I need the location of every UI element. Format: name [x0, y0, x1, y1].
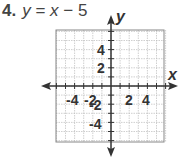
x-tick-label-4: 4 — [142, 92, 150, 108]
coordinate-plane: x y -4 -2 2 4 4 2 -2 -4 — [0, 0, 184, 161]
x-axis-label: x — [167, 66, 178, 83]
x-tick-label-neg4: -4 — [66, 92, 79, 108]
y-tick-label-neg4: -4 — [89, 116, 102, 132]
y-tick-label-2: 2 — [97, 60, 105, 76]
y-axis-label: y — [115, 8, 126, 25]
y-tick-label-neg2: -2 — [89, 97, 102, 113]
x-tick-label-2: 2 — [125, 92, 133, 108]
y-tick-label-4: 4 — [97, 42, 105, 58]
